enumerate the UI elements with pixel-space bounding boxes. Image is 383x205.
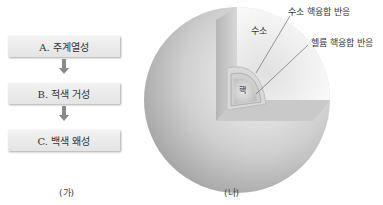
label-hydrogen-fusion: 수소 핵융합 반응: [288, 5, 350, 18]
label-hydrogen: 수소: [251, 24, 267, 37]
label-helium-fusion: 헬륨 핵융합 반응: [311, 36, 373, 49]
star-cross-section: [0, 0, 383, 205]
label-core: 핵: [239, 84, 246, 95]
caption-b: (나): [224, 186, 239, 199]
